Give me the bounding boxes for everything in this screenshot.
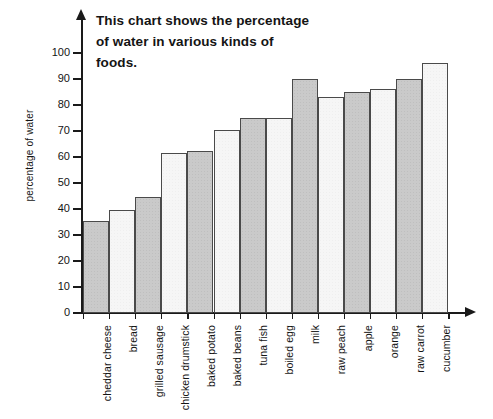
x-axis-label: chicken drumstick [179,325,191,410]
bar [109,210,135,313]
bar [240,118,266,313]
x-axis-label: cheddar cheese [101,325,113,401]
bar-chart: This chart shows the percentage of water… [0,0,493,419]
bar [318,97,344,313]
bar [161,153,187,313]
x-axis-label: raw peach [335,325,347,374]
bar [370,89,396,313]
x-axis-label: tuna fish [257,325,269,366]
bar [344,92,370,313]
x-axis-label: grilled sausage [153,325,165,397]
x-axis-label: bread [127,325,139,352]
x-axis-label: milk [309,325,321,344]
x-axis-label: baked potato [205,325,217,387]
x-axis-label: apple [362,325,374,351]
x-axis-label: orange [388,325,400,358]
x-axis-label: raw carrot [414,325,426,373]
bar [214,130,240,313]
bar [83,221,109,313]
bar [422,63,448,313]
x-axis-label: boiled egg [283,325,295,374]
bar [135,197,161,313]
bar [292,79,318,313]
x-axis-label: baked beans [231,325,243,386]
bar [187,151,213,314]
bar [396,79,422,313]
bar [266,118,292,313]
x-axis-label: cucumber [440,325,452,372]
